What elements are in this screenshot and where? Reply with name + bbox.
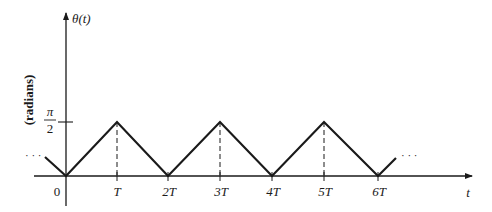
y-axis-label: θ(t) xyxy=(72,11,91,26)
x-axis-label: t xyxy=(466,185,470,200)
triangle-wave-diagram: · · · · · · θ(t) (radians) π 2 0 T 2T 3T… xyxy=(0,0,492,212)
y-tick-label-denominator: 2 xyxy=(47,121,54,136)
origin-label: 0 xyxy=(54,184,61,199)
y-units-label: (radians) xyxy=(21,75,36,126)
x-tick-label-5T: 5T xyxy=(318,184,333,199)
ellipsis-right: · · · xyxy=(401,149,418,161)
x-tick-label-2T: 2T xyxy=(162,184,177,199)
dashed-guides xyxy=(117,122,324,176)
x-tick-label-4T: 4T xyxy=(266,184,281,199)
x-tick-label-3T: 3T xyxy=(213,184,229,199)
ellipsis-left: · · · xyxy=(25,149,42,161)
x-tick-label-T: T xyxy=(113,184,121,199)
y-tick-label-numerator: π xyxy=(47,104,54,119)
x-tick-label-6T: 6T xyxy=(372,184,387,199)
